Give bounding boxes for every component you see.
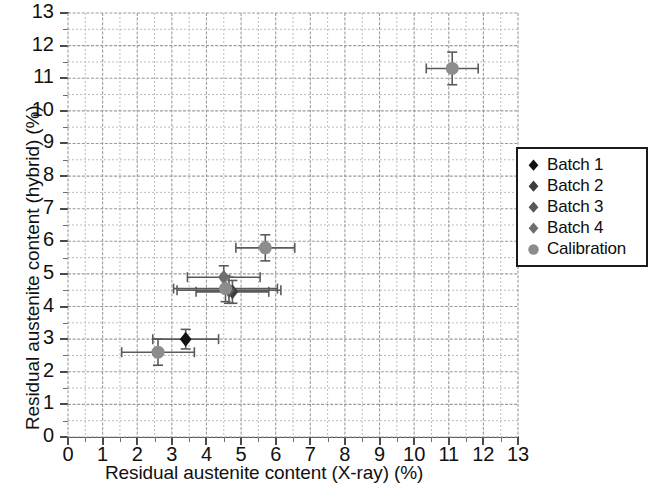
- x-tick-mark-minor: [501, 437, 502, 442]
- x-tick-label: 12: [470, 443, 496, 466]
- x-tick-mark-minor: [224, 437, 225, 442]
- legend-item-batch-1[interactable]: Batch 1: [525, 154, 642, 175]
- y-tick-label: 12: [28, 33, 54, 56]
- x-tick-label: 6: [263, 443, 289, 466]
- x-tick-mark-minor: [258, 437, 259, 442]
- x-tick-label: 8: [332, 443, 358, 466]
- legend-item-label: Batch 4: [547, 218, 603, 238]
- x-tick-mark-minor: [85, 437, 86, 442]
- legend-item-batch-3[interactable]: Batch 3: [525, 196, 642, 217]
- x-tick-label: 7: [297, 443, 323, 466]
- x-tick-label: 2: [124, 443, 150, 466]
- x-tick-mark-minor: [328, 437, 329, 442]
- x-tick-label: 13: [505, 443, 531, 466]
- diamond-marker-icon: [525, 156, 542, 173]
- legend-item-label: Calibration: [547, 239, 626, 259]
- x-tick-label: 1: [90, 443, 116, 466]
- data-points-layer: [68, 13, 518, 437]
- legend-item-calibration[interactable]: Calibration: [525, 238, 642, 259]
- data-point-marker: [180, 332, 192, 347]
- x-tick-label: 10: [401, 443, 427, 466]
- x-tick-label: 5: [228, 443, 254, 466]
- y-tick-label: 6: [28, 228, 54, 251]
- legend-item-label: Batch 1: [547, 155, 603, 175]
- data-point-marker: [152, 346, 165, 359]
- data-point-marker: [259, 241, 272, 254]
- diamond-marker-icon: [525, 177, 542, 194]
- legend-item-batch-2[interactable]: Batch 2: [525, 175, 642, 196]
- x-tick-mark-minor: [362, 437, 363, 442]
- x-tick-label: 11: [436, 443, 462, 466]
- y-tick-label: 13: [28, 0, 54, 23]
- legend-item-batch-4[interactable]: Batch 4: [525, 217, 642, 238]
- x-tick-mark-minor: [397, 437, 398, 442]
- y-tick-label: 4: [28, 294, 54, 317]
- x-tick-mark-minor: [189, 437, 190, 442]
- chart-legend: Batch 1Batch 2Batch 3Batch 4Calibration: [516, 147, 648, 267]
- plot-area: [68, 13, 518, 437]
- x-tick-label: 3: [159, 443, 185, 466]
- x-tick-mark-minor: [431, 437, 432, 442]
- data-point-marker: [446, 62, 459, 75]
- y-tick-label: 7: [28, 196, 54, 219]
- y-tick-label: 3: [28, 326, 54, 349]
- data-point-marker: [219, 282, 232, 295]
- y-tick-label: 2: [28, 359, 54, 382]
- legend-item-label: Batch 2: [547, 176, 603, 196]
- diamond-marker-icon: [525, 198, 542, 215]
- x-tick-mark-minor: [155, 437, 156, 442]
- y-tick-label: 8: [28, 163, 54, 186]
- x-tick-label: 9: [367, 443, 393, 466]
- y-tick-label: 1: [28, 391, 54, 414]
- x-tick-label: 4: [193, 443, 219, 466]
- legend-item-label: Batch 3: [547, 197, 603, 217]
- x-tick-label: 0: [55, 443, 81, 466]
- y-tick-label: 5: [28, 261, 54, 284]
- y-tick-label: 9: [28, 130, 54, 153]
- x-tick-mark-minor: [466, 437, 467, 442]
- y-tick-label: 0: [28, 424, 54, 447]
- y-tick-label: 11: [28, 65, 54, 88]
- diamond-marker-icon: [525, 219, 542, 236]
- y-tick-label: 10: [28, 98, 54, 121]
- circle-marker-icon: [525, 240, 542, 257]
- x-tick-mark-minor: [120, 437, 121, 442]
- x-tick-mark-minor: [293, 437, 294, 442]
